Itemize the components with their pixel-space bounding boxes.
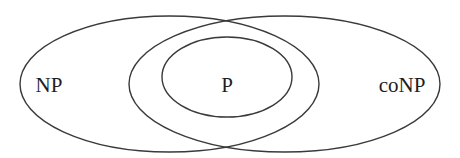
complexity-venn-diagram: NP coNP P: [0, 0, 460, 158]
p-label: P: [221, 73, 233, 97]
np-set-ellipse: [20, 16, 319, 152]
conp-label: coNP: [379, 73, 426, 97]
np-label: NP: [36, 73, 63, 97]
